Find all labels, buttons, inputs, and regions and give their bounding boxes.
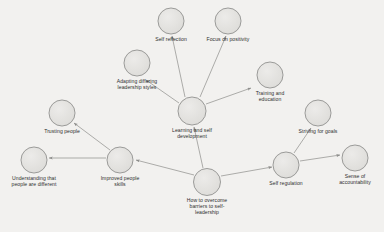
node-label-adapting-differing-leadership-styles: Adapting differingleadership styles bbox=[117, 78, 157, 90]
node-label-line: Focus on positivity bbox=[207, 36, 250, 42]
node-label-line: Self regulation bbox=[269, 180, 302, 186]
node-circle-striving-for-goals bbox=[305, 100, 332, 127]
edge-barriers-to-self-regulation bbox=[221, 167, 272, 176]
node-circle-understanding-that-people-are-different bbox=[21, 147, 48, 174]
node-label-striving-for-goals: Striving for goals bbox=[299, 128, 338, 134]
edge-learning-to-training bbox=[206, 88, 251, 104]
node-label-line: leadership styles bbox=[117, 84, 157, 90]
node-circle-trusting-people bbox=[49, 100, 76, 127]
node-circle-training-and-education bbox=[257, 62, 284, 89]
edge-barriers-to-improved-people-skills bbox=[136, 160, 194, 175]
node-circle-how-to-overcome-barriers-to-self-leadership bbox=[193, 168, 221, 196]
mind-map-canvas: Self reflectionFocus on positivityAdapti… bbox=[0, 0, 384, 232]
node-label-line: skills bbox=[101, 181, 140, 187]
node-label-line: education bbox=[256, 96, 285, 102]
node-label-how-to-overcome-barriers-to-self-leadership: How to overcomebarriers to self-leadersh… bbox=[187, 197, 227, 216]
node-circle-adapting-differing-leadership-styles bbox=[124, 50, 151, 77]
node-label-line: accountability bbox=[339, 179, 371, 185]
node-circle-sense-of-accountability bbox=[342, 145, 369, 172]
node-circle-learning-and-self-development bbox=[178, 96, 207, 125]
edge-self-regulation-to-sense-of-accountability bbox=[300, 155, 340, 161]
node-label-line: leadership bbox=[187, 209, 227, 215]
node-label-line: people are different bbox=[12, 181, 57, 187]
edge-learning-to-focus-on-positivity bbox=[200, 36, 226, 97]
node-label-line: Self reflection bbox=[155, 36, 187, 42]
node-circle-self-reflection bbox=[158, 7, 185, 34]
node-label-training-and-education: Training andeducation bbox=[256, 90, 285, 102]
node-label-focus-on-positivity: Focus on positivity bbox=[207, 36, 250, 42]
node-label-self-regulation: Self regulation bbox=[269, 180, 302, 186]
node-label-sense-of-accountability: Sense ofaccountability bbox=[339, 173, 371, 185]
node-circle-improved-people-skills bbox=[107, 147, 134, 174]
node-label-self-reflection: Self reflection bbox=[155, 36, 187, 42]
node-label-learning-and-self-development: Learning and selfdevelopment bbox=[172, 127, 212, 139]
node-label-line: development bbox=[172, 133, 212, 139]
node-label-line: Striving for goals bbox=[299, 128, 338, 134]
node-label-trusting-people: Trusting people bbox=[44, 128, 80, 134]
node-label-understanding-that-people-are-different: Understanding thatpeople are different bbox=[12, 175, 57, 187]
node-circle-focus-on-positivity bbox=[215, 7, 242, 34]
node-circle-self-regulation bbox=[273, 152, 300, 179]
edge-learning-to-self-reflection bbox=[172, 36, 185, 97]
node-label-improved-people-skills: Improved peopleskills bbox=[101, 175, 140, 187]
node-label-line: Trusting people bbox=[44, 128, 80, 134]
